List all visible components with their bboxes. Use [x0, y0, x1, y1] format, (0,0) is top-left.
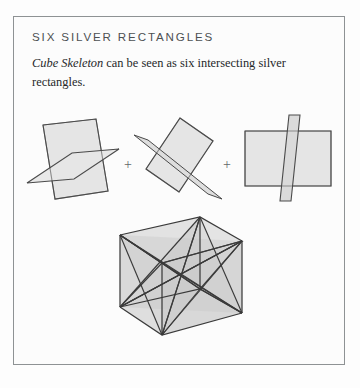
rect-pair-2-shapes: [134, 118, 222, 199]
figure-rectangle-pair-1: [24, 113, 128, 213]
rect-pair-1-shapes: [27, 119, 119, 199]
panel-content: SIX SILVER RECTANGLES Cube Skeleton can …: [14, 17, 344, 364]
cube-figure-row: [14, 215, 346, 360]
rect-pair-3-shapes: [245, 115, 331, 201]
figure-rectangle-pair-2: [132, 113, 228, 213]
rectangle-pairs-row: + +: [14, 113, 346, 217]
cube-skeleton-composite: [102, 215, 258, 347]
body-paragraph: Cube Skeleton can be seen as six interse…: [32, 54, 332, 91]
figure-name-italic: Cube Skeleton: [32, 56, 103, 70]
page-title: SIX SILVER RECTANGLES: [32, 30, 214, 43]
page-root: SIX SILVER RECTANGLES Cube Skeleton can …: [0, 0, 360, 388]
plus-operator-1: +: [124, 158, 132, 172]
silver-rectangle-tilted-2: [146, 118, 213, 192]
plus-operator-2: +: [223, 158, 231, 172]
illustration-panel: SIX SILVER RECTANGLES Cube Skeleton can …: [13, 16, 345, 365]
figure-rectangle-pair-3: [239, 113, 339, 213]
